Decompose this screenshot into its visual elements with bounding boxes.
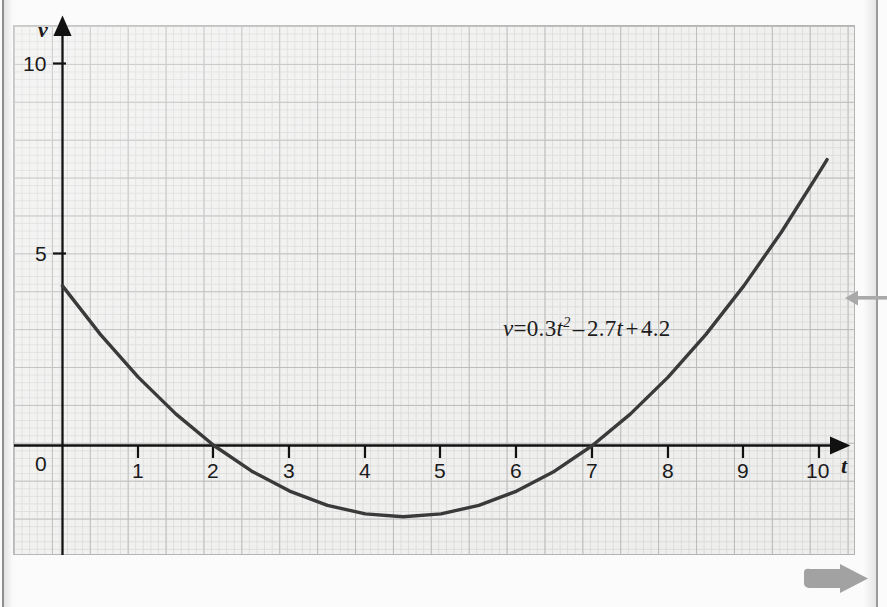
x-tick-label-4: 4 [359,460,371,481]
equation-term3: 4.2 [641,316,671,341]
x-tick-label-2: 2 [207,460,219,481]
worksheet-page: v t 10 5 0 1 2 3 4 5 6 7 8 9 10 v=0.3t2 … [0,0,887,607]
x-tick-label-9: 9 [737,460,749,481]
forward-arrow-icon [800,563,872,597]
y-tick-label-5: 5 [35,243,47,264]
x-axis-label: t [841,455,847,477]
left-pointing-arrow-icon [845,288,887,308]
y-axis-ticks [53,64,66,254]
equation-lhs: v [503,316,514,341]
equation-term2-var: t [617,316,624,341]
equation-term2-coeff: 2.7 [587,316,617,341]
x-tick-label-5: 5 [434,460,446,481]
equation-operator-1: – [573,316,585,341]
x-tick-label-6: 6 [510,460,522,481]
equation-annotation: v=0.3t2 – 2.7t + 4.2 [503,314,671,342]
origin-label-0: 0 [35,453,47,474]
graph-plot [0,0,887,607]
equation-equals: = [514,316,527,341]
x-tick-label-1: 1 [132,460,144,481]
x-tick-label-3: 3 [283,460,295,481]
equation-term1-coeff: 0.3 [527,316,557,341]
x-tick-label-10: 10 [806,460,829,481]
x-tick-label-8: 8 [662,460,674,481]
y-axis-label: v [38,19,48,41]
equation-operator-2: + [625,316,638,341]
equation-term1-exponent: 2 [563,314,570,330]
y-tick-label-10: 10 [23,53,46,74]
x-tick-label-7: 7 [586,460,598,481]
x-axis-ticks [138,445,819,458]
